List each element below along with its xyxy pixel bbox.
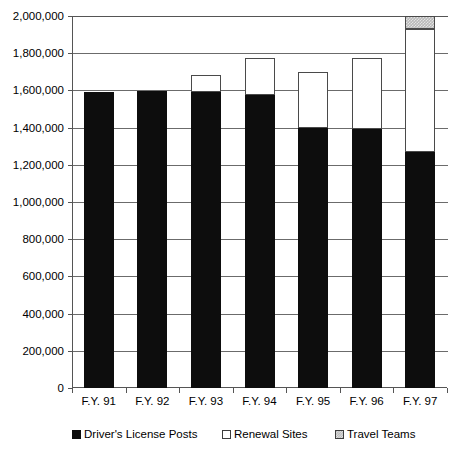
bar-segment[interactable] — [191, 92, 221, 388]
bars-layer — [72, 16, 447, 388]
bar-segment[interactable] — [191, 75, 221, 93]
x-axis-tick — [286, 388, 287, 393]
x-axis-tick — [340, 388, 341, 393]
bar-segment[interactable] — [245, 95, 275, 388]
y-axis-tick-label: 400,000 — [0, 308, 64, 320]
bar-segment[interactable] — [298, 128, 328, 388]
y-axis-tick-label: 0 — [0, 382, 64, 394]
bar-group[interactable] — [191, 16, 221, 388]
bar-segment[interactable] — [245, 58, 275, 95]
x-axis-tick — [126, 388, 127, 393]
x-axis-tick-label: F.Y. 96 — [340, 395, 394, 408]
legend-item[interactable]: Renewal Sites — [222, 426, 308, 442]
bar-group[interactable] — [245, 16, 275, 388]
x-axis-tick — [233, 388, 234, 393]
bar-segment[interactable] — [352, 129, 382, 388]
x-axis-tick-label: F.Y. 94 — [233, 395, 287, 408]
chart-legend: Driver's License PostsRenewal SitesTrave… — [0, 426, 458, 448]
legend-label: Driver's License Posts — [84, 428, 197, 440]
y-axis-tick-label: 2,000,000 — [0, 10, 64, 22]
legend-item[interactable]: Travel Teams — [335, 426, 415, 442]
bar-group[interactable] — [405, 16, 435, 388]
legend-swatch-icon — [72, 430, 81, 439]
x-axis-tick — [179, 388, 180, 393]
legend-swatch-icon — [222, 430, 231, 439]
legend-item[interactable]: Driver's License Posts — [72, 426, 197, 442]
x-axis-tick — [393, 388, 394, 393]
y-axis-tick-label: 1,400,000 — [0, 122, 64, 134]
x-axis-tick-label: F.Y. 95 — [286, 395, 340, 408]
bar-segment[interactable] — [298, 72, 328, 128]
bar-segment[interactable] — [405, 29, 435, 152]
y-axis-tick-label: 1,000,000 — [0, 196, 64, 208]
legend-label: Travel Teams — [347, 428, 415, 440]
bar-group[interactable] — [84, 16, 114, 388]
x-axis-tick — [447, 388, 448, 393]
legend-swatch-icon — [335, 430, 344, 439]
bar-group[interactable] — [298, 16, 328, 388]
y-axis-tick-label: 800,000 — [0, 233, 64, 245]
legend-label: Renewal Sites — [234, 428, 308, 440]
bar-segment[interactable] — [84, 92, 114, 388]
y-axis-tick-label: 600,000 — [0, 270, 64, 282]
y-axis-tick-label: 1,200,000 — [0, 159, 64, 171]
stacked-bar-chart: 2,000,0001,800,0001,600,0001,400,0001,20… — [0, 0, 458, 449]
x-axis-tick-label: F.Y. 92 — [126, 395, 180, 408]
y-axis-tick-label: 1,800,000 — [0, 47, 64, 59]
y-axis-tick-label: 200,000 — [0, 345, 64, 357]
x-axis-tick-label: F.Y. 91 — [72, 395, 126, 408]
bar-segment[interactable] — [137, 91, 167, 388]
x-axis-tick-label: F.Y. 93 — [179, 395, 233, 408]
bar-segment[interactable] — [352, 58, 382, 129]
x-axis-tick — [72, 388, 73, 393]
bar-segment[interactable] — [405, 152, 435, 388]
x-axis-tick-label: F.Y. 97 — [393, 395, 447, 408]
y-axis-tick-label: 1,600,000 — [0, 84, 64, 96]
bar-group[interactable] — [137, 16, 167, 388]
bar-segment[interactable] — [405, 16, 435, 29]
bar-group[interactable] — [352, 16, 382, 388]
